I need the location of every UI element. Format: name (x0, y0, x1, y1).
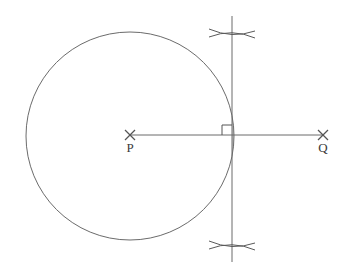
point-label-Q: Q (318, 140, 328, 155)
right-angle-marker (222, 125, 232, 135)
geometry-canvas: P Q (0, 0, 345, 270)
point-P: P (125, 130, 135, 155)
geometry-diagram: P Q (0, 0, 345, 270)
point-label-P: P (126, 140, 133, 155)
circle-centered-at-P (26, 32, 234, 240)
shaded-circular-segment (26, 32, 234, 240)
point-Q: Q (318, 130, 328, 155)
